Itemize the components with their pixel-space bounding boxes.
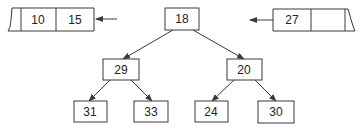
edge-arrow-icon [123,30,173,59]
tree-diagram: 10 15 27 18 29 20 31 33 [0,0,364,132]
tree-node: 20 [227,59,262,80]
left-queue-cell: 10 [31,13,45,27]
node-label: 20 [237,63,251,77]
node-label: 30 [269,105,283,119]
right-queue-cell: 27 [285,13,299,27]
edge-arrow-icon [193,30,244,59]
tree-node: 30 [258,101,294,123]
tree-node: 29 [103,59,139,80]
edge-arrow-icon [255,80,276,101]
node-label: 31 [83,105,97,119]
edge-arrow-icon [131,80,152,101]
edge-arrow-icon [212,80,234,101]
tree-node: 33 [134,101,168,122]
node-label: 33 [144,105,158,119]
left-queue-cell: 15 [68,13,82,27]
tree-node: 24 [195,101,228,122]
tree-node-root: 18 [165,8,199,30]
node-label: 29 [114,63,128,77]
node-label: 24 [204,105,218,119]
right-queue: 27 [250,9,355,31]
left-queue: 10 15 [8,8,117,31]
edge-arrow-icon [89,80,110,101]
node-label: 18 [175,12,189,26]
tree-node: 31 [74,101,107,122]
